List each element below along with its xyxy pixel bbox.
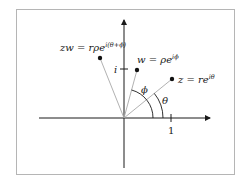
ray-zw — [100, 58, 124, 118]
label-theta: θ — [162, 95, 168, 106]
label-zw: zw = rρei(θ+ϕ) — [59, 41, 127, 53]
label-phi: ϕ — [141, 84, 148, 95]
complex-plane-diagram: zw = rρei(θ+ϕ) w = ρeiϕ z = reiθ ϕ θ 1 i — [0, 0, 247, 187]
ray-w — [124, 70, 137, 118]
label-tick-one: 1 — [168, 125, 174, 136]
label-tick-i: i — [114, 64, 117, 75]
point-z — [170, 77, 174, 81]
point-zw — [98, 56, 102, 60]
label-z: z = reiθ — [177, 73, 215, 85]
point-w — [135, 68, 139, 72]
label-w: w = ρeiϕ — [137, 53, 179, 65]
